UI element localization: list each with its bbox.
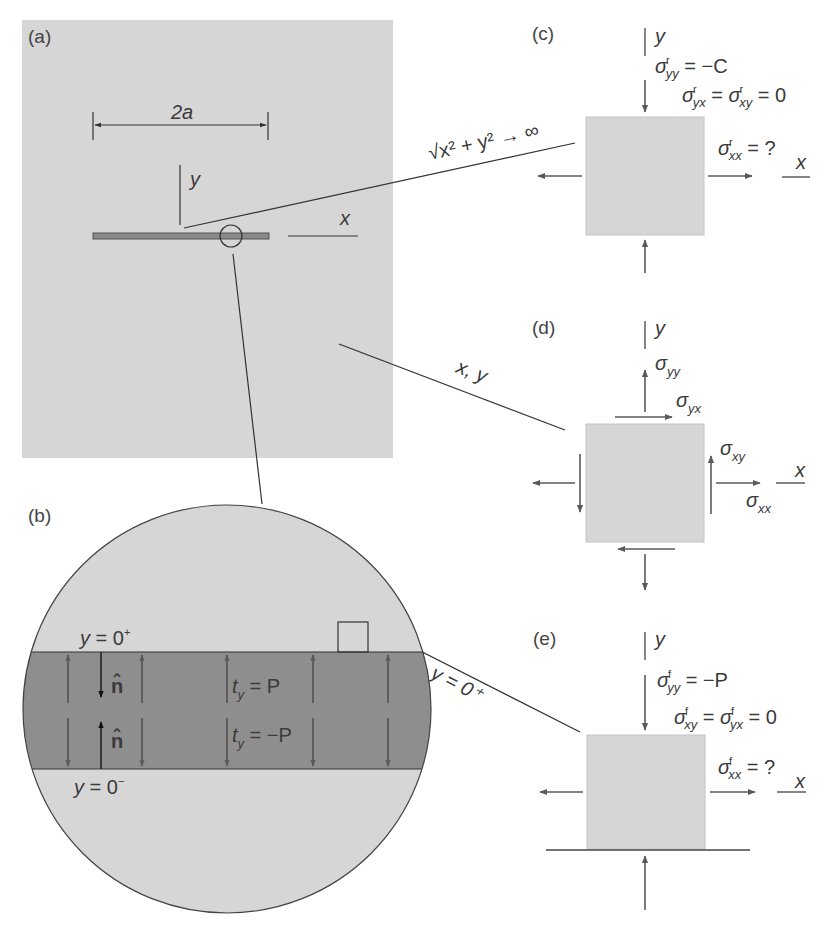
panel-a: (a) 2a y x — [22, 20, 393, 458]
panel-c-letter: (c) — [532, 23, 554, 44]
crack-opening-band — [0, 652, 460, 769]
lower-face-label: y = 0− — [72, 775, 124, 798]
e-shear-eq: σfxy = σfyx = 0 — [674, 705, 777, 732]
panel-c: (c) y σryy = −C σryx = σrxy = 0 σrxx = ?… — [532, 23, 810, 273]
d-sigma-xx-label: σxx — [746, 489, 772, 516]
crack — [93, 233, 269, 239]
panel-e-letter: (e) — [533, 628, 556, 649]
panel-d-letter: (d) — [532, 317, 555, 338]
upper-face-label: y = 0+ — [78, 626, 130, 649]
e-sigma-yy-eq: σfyy = −P — [657, 668, 728, 695]
d-sigma-xy-label: σxy — [720, 437, 747, 464]
normal-label-lower: n̂ — [111, 728, 123, 752]
e-stress-element — [587, 735, 705, 849]
panel-a-letter: (a) — [28, 26, 51, 47]
y-axis-label: y — [188, 168, 201, 190]
c-x-axis-label: x — [795, 151, 807, 173]
d-y-axis-label: y — [653, 317, 666, 339]
c-sigma-xx-eq: σrxx = ? — [718, 136, 776, 163]
panel-b: (b) y = 0+ y = 0− — [0, 505, 460, 913]
d-stress-element — [586, 424, 704, 542]
normal-label-upper: n̂ — [111, 673, 123, 697]
d-x-axis-label: x — [794, 459, 806, 481]
c-sigma-yy-eq: σryy = −C — [655, 54, 728, 81]
c-stress-element — [586, 117, 704, 235]
general-point-label-group: x, y — [453, 355, 492, 387]
c-shear-eq: σryx = σrxy = 0 — [682, 83, 786, 110]
e-y-axis-label: y — [653, 628, 666, 650]
dimension-label: 2a — [170, 101, 193, 123]
d-sigma-yy-label: σyy — [655, 352, 682, 379]
far-field-label-group: √x² + y² → ∞ — [426, 118, 541, 163]
general-point-label: x, y — [453, 355, 492, 387]
panel-b-letter: (b) — [28, 505, 51, 526]
panel-d: (d) y σyy σyx σxy σxx x — [532, 317, 806, 590]
e-x-axis-label: x — [794, 770, 806, 792]
far-field-label: √x² + y² → ∞ — [426, 118, 541, 163]
d-sigma-yx-label: σyx — [676, 389, 702, 416]
crack-stress-diagram: (a) 2a y x √x² + y² → ∞ x, y |x| ≤ a, y … — [0, 0, 837, 948]
c-y-axis-label: y — [653, 25, 666, 47]
x-axis-label: x — [339, 207, 351, 229]
panel-e: (e) y σfyy = −P σfxy = σfyx = 0 σfxx = ?… — [533, 628, 806, 910]
e-sigma-xx-eq: σfxx = ? — [718, 755, 775, 782]
